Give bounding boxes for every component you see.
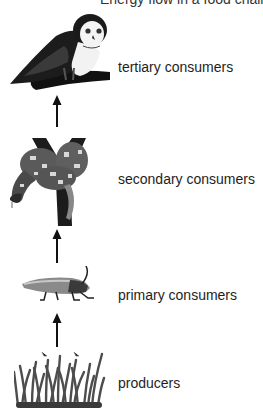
owl-illustration	[4, 6, 112, 90]
snake-illustration	[6, 134, 92, 226]
arrow-up-icon	[52, 95, 62, 127]
producers-label: producers	[118, 375, 180, 391]
primary-consumers-label: primary consumers	[118, 287, 237, 303]
grasshopper-illustration	[20, 266, 96, 302]
arrow-up-icon	[52, 313, 62, 347]
arrow-up-icon	[52, 229, 62, 263]
diagram-title-cropped: Energy flow in a food chain	[100, 0, 263, 7]
secondary-consumers-label: secondary consumers	[118, 171, 255, 187]
grass-illustration	[14, 348, 106, 410]
tertiary-consumers-label: tertiary consumers	[118, 59, 233, 75]
